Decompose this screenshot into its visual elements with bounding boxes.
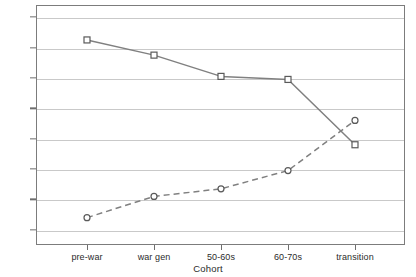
x-tick-mark	[355, 245, 356, 250]
y-tick-mark	[30, 77, 36, 78]
y-tick-mark	[30, 138, 36, 139]
line-chart: 0,800,600,400,200,00-0,20-0,40-0,60 pre-…	[0, 0, 416, 277]
y-tick-mark	[30, 47, 36, 48]
gridline-040	[37, 200, 404, 201]
x-tick-label-war-gen: war gen	[138, 252, 171, 262]
gridline-080	[37, 18, 404, 19]
x-tick-mark	[87, 245, 88, 250]
plot-area	[36, 5, 405, 245]
gridline-020	[37, 170, 404, 171]
gridline-060	[37, 49, 404, 50]
x-tick-mark	[288, 245, 289, 250]
x-tick-mark	[221, 245, 222, 250]
y-tick-mark	[30, 168, 36, 169]
gridline-000	[37, 140, 404, 141]
x-axis-title: Cohort	[0, 263, 416, 274]
y-tick-mark	[30, 229, 36, 230]
x-tick-mark	[154, 245, 155, 250]
gridline-040	[37, 79, 404, 80]
x-tick-label-60-70s: 60-70s	[274, 252, 302, 262]
y-tick-mark	[30, 199, 36, 200]
gridline-060	[37, 231, 404, 232]
y-tick-mark	[30, 16, 36, 17]
gridline-020	[37, 109, 404, 110]
y-tick-mark	[30, 108, 36, 109]
x-tick-label-50-60s: 50-60s	[207, 252, 235, 262]
x-tick-label-pre-war: pre-war	[71, 252, 102, 262]
x-tick-label-transition: transition	[336, 252, 374, 262]
